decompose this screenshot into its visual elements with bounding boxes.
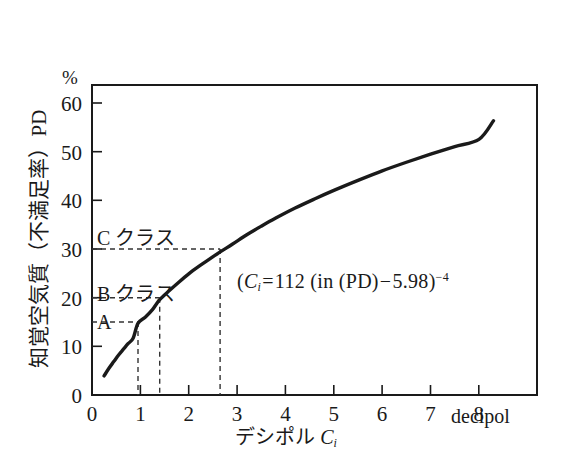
chart-canvas [0, 0, 572, 454]
x-axis-title-subscript: i [334, 436, 337, 450]
x-tick-label-7: 7 [418, 404, 444, 425]
y-tick-label-40: 40 [48, 191, 82, 212]
x-tick-label-4: 4 [272, 404, 298, 425]
y-tick-label-60: 60 [48, 94, 82, 115]
formula-minus: − [379, 270, 393, 292]
formula-annotation: (Ci=112 (in (PD)−5.98)−4 [237, 271, 449, 293]
x-tick-label-1: 1 [127, 404, 153, 425]
x-axis-unit-label: decipol [451, 406, 510, 426]
y-tick-label-0: 0 [48, 386, 82, 407]
formula-close-paren: ) [429, 270, 436, 292]
formula-coefficient: 112 [275, 270, 305, 292]
y-tick-label-20: 20 [48, 289, 82, 310]
formula-variable: C [244, 270, 258, 292]
y-axis-unit: % [62, 68, 78, 87]
formula-equals: = [261, 270, 275, 292]
y-tick-label-10: 10 [48, 337, 82, 358]
x-axis-title-text: デシポル [235, 426, 320, 448]
class-a-label: A [97, 312, 111, 332]
x-tick-label-6: 6 [369, 404, 395, 425]
formula-exponent: −4 [436, 270, 449, 284]
formula-constant: 5.98 [392, 270, 428, 292]
y-tick-label-30: 30 [48, 240, 82, 261]
formula-open-paren: ( [237, 270, 244, 292]
x-tick-label-3: 3 [224, 404, 250, 425]
x-axis-title: デシポル Ci [0, 427, 572, 449]
class-b-label: B クラス [97, 284, 175, 304]
class-c-label: C クラス [97, 228, 175, 248]
x-tick-label-2: 2 [176, 404, 202, 425]
x-tick-label-5: 5 [321, 404, 347, 425]
formula-inner-expression: (in (PD) [310, 270, 379, 292]
chart-figure: % 60 50 40 30 20 10 0 0 1 2 3 4 5 6 7 8 … [0, 0, 572, 454]
x-tick-label-0: 0 [79, 404, 105, 425]
x-axis-title-variable: C [320, 426, 333, 448]
y-axis-title: 知覚空気質（不満足率）PD [29, 118, 50, 368]
y-tick-label-50: 50 [48, 143, 82, 164]
